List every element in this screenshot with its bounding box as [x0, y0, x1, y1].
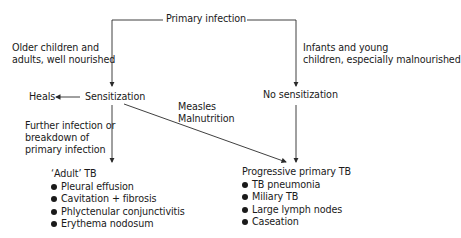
heals-node: Heals [29, 91, 55, 103]
list-item: Caseation [242, 216, 351, 229]
adult-tb-title: ‘Adult’ TB [51, 168, 185, 181]
left-down-label-line1: Further infection or [25, 120, 115, 132]
no-sensitization-node: No sensitization [263, 89, 338, 101]
left-branch-label: Older children and adults, well nourishe… [12, 42, 115, 66]
left-down-label-line3: primary infection [25, 144, 115, 156]
left-down-label: Further infection or breakdown of primar… [25, 120, 115, 156]
diagonal-label-line2: Malnutrition [178, 113, 235, 125]
adult-tb-list: Pleural effusion Cavitation + fibrosis P… [51, 181, 185, 231]
right-branch-label-line2: children, especially malnourished [303, 54, 461, 66]
list-item: TB pneumonia [242, 179, 351, 192]
progressive-tb-block: Progressive primary TB TB pneumonia Mili… [242, 166, 351, 229]
sensitization-node: Sensitization [85, 91, 145, 103]
left-down-label-line2: breakdown of [25, 132, 115, 144]
list-item: Miliary TB [242, 191, 351, 204]
left-branch-label-line1: Older children and [12, 42, 115, 54]
left-branch-label-line2: adults, well nourished [12, 54, 115, 66]
list-item: Large lymph nodes [242, 204, 351, 217]
diagonal-label: Measles Malnutrition [178, 101, 235, 125]
progressive-tb-list: TB pneumonia Miliary TB Large lymph node… [242, 179, 351, 229]
right-branch-label-line1: Infants and young [303, 42, 461, 54]
list-item: Cavitation + fibrosis [51, 193, 185, 206]
primary-infection-node: Primary infection [166, 13, 246, 25]
diagonal-label-line1: Measles [178, 101, 235, 113]
list-item: Erythema nodosum [51, 218, 185, 231]
right-branch-label: Infants and young children, especially m… [303, 42, 461, 66]
list-item: Phlyctenular conjunctivitis [51, 206, 185, 219]
progressive-tb-title: Progressive primary TB [242, 166, 351, 179]
list-item: Pleural effusion [51, 181, 185, 194]
adult-tb-block: ‘Adult’ TB Pleural effusion Cavitation +… [51, 168, 185, 231]
